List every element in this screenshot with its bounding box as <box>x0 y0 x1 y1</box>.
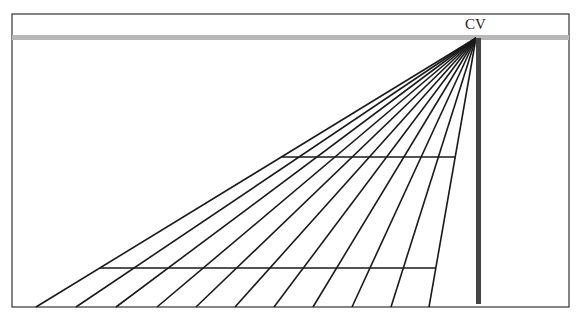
vanishing-point-label: CV <box>465 16 486 32</box>
vertical-post <box>476 38 481 304</box>
perspective-diagram: CV <box>0 0 580 323</box>
picture-frame <box>12 14 569 307</box>
horizon-line <box>12 35 569 40</box>
